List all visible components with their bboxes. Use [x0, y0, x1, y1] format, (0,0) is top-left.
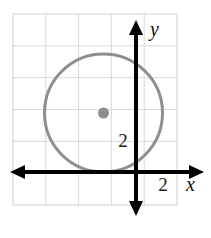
- y-axis-label: y: [148, 18, 159, 41]
- y-axis-down-arrow-icon: [129, 201, 143, 216]
- circle-center-point: [98, 108, 109, 119]
- circle-graph-figure: y x 2 2: [0, 0, 211, 238]
- y-axis-tick-label-2: 2: [118, 130, 128, 151]
- coordinate-plane-svg: y x 2 2: [0, 0, 211, 238]
- x-axis-tick-label-2: 2: [158, 174, 168, 195]
- grid-group: [13, 14, 177, 205]
- x-axis-label: x: [185, 173, 195, 195]
